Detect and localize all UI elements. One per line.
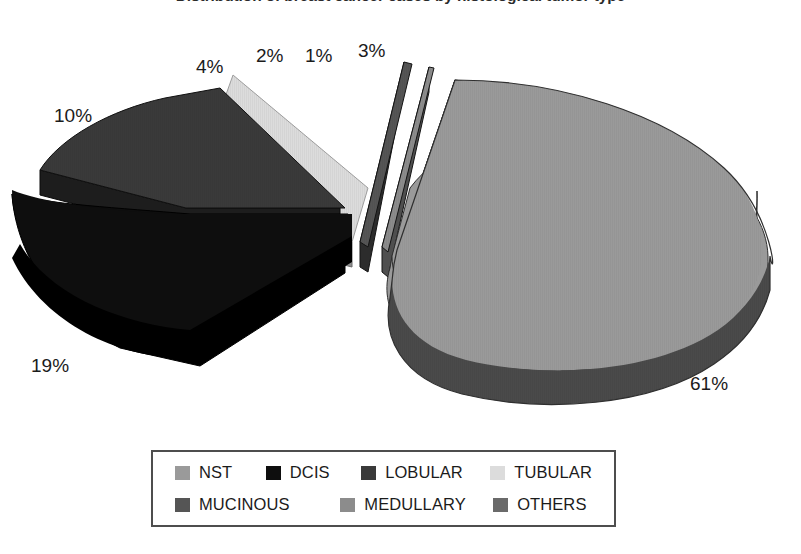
pie-chart-plot-area: 61% 19% 10% 4% 2% 1% 3%	[0, 18, 801, 428]
legend-label-mucinous: MUCINOUS	[199, 495, 290, 514]
chart-legend: NST DCIS LOBULAR TUBULAR MUCINOUS MEDULL…	[151, 450, 616, 527]
legend-label-others: OTHERS	[517, 495, 586, 514]
data-label-lobular: 10%	[54, 105, 92, 127]
legend-item-nst[interactable]: NST	[175, 463, 266, 482]
data-label-nst: 61%	[690, 373, 728, 395]
legend-row-2: MUCINOUS MEDULLARY OTHERS	[175, 489, 592, 521]
pie-slice-dcis[interactable]	[12, 190, 352, 366]
pie-chart-svg	[0, 18, 801, 428]
legend-label-dcis: DCIS	[290, 463, 330, 482]
pie-slice-nst[interactable]	[387, 80, 773, 404]
legend-swatch-dcis	[266, 466, 281, 480]
legend-swatch-medullary	[340, 498, 355, 512]
legend-swatch-others	[493, 498, 508, 512]
legend-label-lobular: LOBULAR	[385, 463, 463, 482]
data-label-dcis: 19%	[31, 355, 69, 377]
legend-swatch-mucinous	[175, 498, 190, 512]
legend-swatch-lobular	[361, 466, 376, 480]
legend-label-medullary: MEDULLARY	[364, 495, 465, 514]
legend-item-tubular[interactable]: TUBULAR	[490, 463, 592, 482]
legend-item-medullary[interactable]: MEDULLARY	[340, 495, 493, 514]
legend-row-1: NST DCIS LOBULAR TUBULAR	[175, 457, 592, 489]
legend-item-others[interactable]: OTHERS	[493, 495, 592, 514]
legend-swatch-nst	[175, 466, 190, 480]
legend-label-tubular: TUBULAR	[514, 463, 592, 482]
legend-item-mucinous[interactable]: MUCINOUS	[175, 495, 340, 514]
legend-item-lobular[interactable]: LOBULAR	[361, 463, 490, 482]
legend-swatch-tubular	[490, 466, 505, 480]
data-label-others: 3%	[358, 40, 385, 62]
data-label-mucinous: 2%	[256, 45, 283, 67]
legend-item-dcis[interactable]: DCIS	[266, 463, 361, 482]
data-label-medullary: 1%	[305, 45, 332, 67]
page-title: Distribution of breast cancer cases by h…	[0, 0, 801, 5]
legend-label-nst: NST	[199, 463, 232, 482]
data-label-tubular: 4%	[196, 56, 223, 78]
